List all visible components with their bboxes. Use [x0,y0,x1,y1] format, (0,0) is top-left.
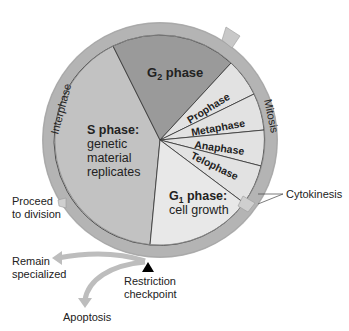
remain-arrow-head-icon [52,251,62,265]
s-phase-line3: replicates [87,165,141,179]
cell-cycle-diagram: Interphase Mitosis G2 phase S phase: gen… [0,0,349,331]
proceed-label-line1: Proceed [12,195,53,207]
cytokinesis-label: Cytokinesis [286,188,343,200]
remain-label-line1: Remain [12,255,50,267]
apoptosis-label: Apoptosis [63,311,112,323]
restriction-label-line1: Restriction [124,275,176,287]
s-phase-line2: material [87,151,131,165]
g1-phase-line1: cell growth [169,203,229,217]
remain-specialized-arrow [58,254,145,261]
proceed-label-line2: to division [12,208,61,220]
proceed-arrow-icon [58,198,66,208]
remain-label-line2: specialized [12,268,66,280]
g2-phase-label: G2 phase [147,65,203,82]
s-phase-line1: genetic [87,137,127,151]
s-phase-title: S phase: [87,123,139,137]
apoptosis-arrow-head-icon [78,298,92,308]
restriction-label-line2: checkpoint [124,288,177,300]
